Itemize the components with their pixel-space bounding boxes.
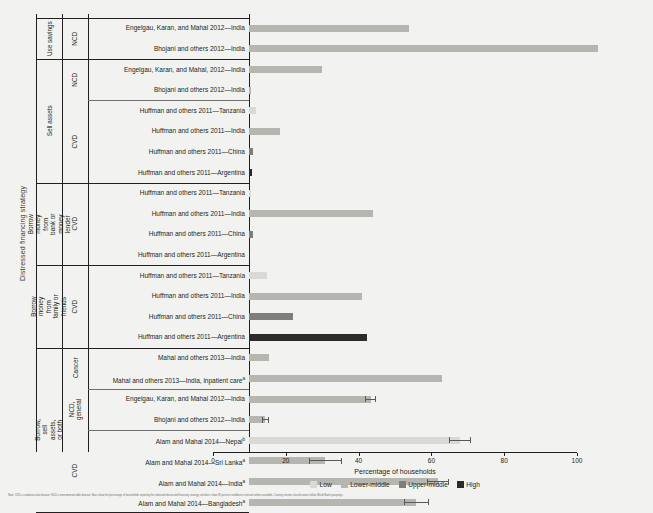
disease-cell: NCD <box>62 59 88 100</box>
error-bar-cap-low <box>309 458 310 464</box>
disease-cell: CVD <box>62 430 88 512</box>
error-bar-cap-high <box>428 499 429 505</box>
legend-item: High <box>457 481 480 488</box>
disease-column: NCDNCDCVDCVDCVDCancerNCD, generalCVD <box>62 14 88 452</box>
bar <box>249 45 598 52</box>
disease-label: NCD <box>71 32 78 46</box>
x-axis: 020406080100 <box>213 452 577 453</box>
disease-cell: NCD, general <box>62 389 88 430</box>
bar <box>249 313 293 320</box>
strategy-separator <box>36 18 249 19</box>
disease-cell: CVD <box>62 100 88 182</box>
x-axis-tick <box>286 453 287 456</box>
legend-swatch <box>310 481 317 488</box>
legend-label: High <box>466 481 480 488</box>
study-label-column: Engelgau, Karan, and Mahal 2012—IndiaBho… <box>88 14 249 452</box>
strategy-cell: Use savings <box>36 18 62 59</box>
disease-label: CVD <box>71 300 78 314</box>
footnote-marker: a <box>242 499 245 504</box>
error-bar-line <box>309 460 342 461</box>
error-bar-cap-low <box>449 437 450 443</box>
strategy-column: Use savingsSell assetsBorrow money from … <box>36 14 62 452</box>
disease-label: NCD, general <box>68 396 83 422</box>
x-axis-tick <box>359 453 360 456</box>
bars-column <box>249 14 613 452</box>
footnote-marker: a <box>242 376 245 381</box>
disease-separator <box>88 389 249 390</box>
error-bar-cap-high <box>470 437 471 443</box>
disease-cell: Cancer <box>62 348 88 389</box>
bar <box>249 334 367 341</box>
bar <box>249 87 251 94</box>
bar <box>249 107 256 114</box>
legend-item: Upper-middle <box>399 481 448 488</box>
bar <box>249 25 409 32</box>
x-axis-tick-label: 60 <box>428 457 435 464</box>
error-bar-cap-low <box>404 499 405 505</box>
bar <box>249 354 269 361</box>
bar <box>249 190 251 197</box>
bar <box>249 231 253 238</box>
legend-swatch <box>457 481 464 488</box>
x-axis-tick <box>213 453 214 456</box>
x-axis-tick-label: 0 <box>211 457 215 464</box>
footnote-marker: a <box>242 458 245 463</box>
error-bar-cap-low <box>262 417 263 423</box>
strategy-label: Sell assets <box>45 106 52 137</box>
bar <box>249 128 280 135</box>
error-bar <box>262 416 269 423</box>
x-axis-tick-label: 20 <box>282 457 289 464</box>
plot-area <box>249 14 613 426</box>
bar <box>249 375 442 382</box>
legend-item: Low <box>310 481 332 488</box>
strategy-label: Use savings <box>45 21 52 56</box>
strategy-cell: Borrow, sell assets, or both <box>36 348 62 513</box>
legend-swatch <box>399 481 406 488</box>
disease-label: CVD <box>71 464 78 478</box>
disease-label: Cancer <box>71 358 78 379</box>
x-axis-tick <box>431 453 432 456</box>
x-axis-tick-label: 80 <box>501 457 508 464</box>
strategy-cell: Sell assets <box>36 59 62 183</box>
error-bar <box>404 499 429 506</box>
disease-label: NCD <box>71 73 78 87</box>
x-axis-tick-label: 40 <box>355 457 362 464</box>
disease-cell: NCD <box>62 18 88 59</box>
disease-separator <box>88 100 249 101</box>
error-bar-cap-high <box>341 458 342 464</box>
bar <box>249 66 322 73</box>
bar <box>249 169 252 176</box>
disease-separator <box>88 430 249 431</box>
strategy-separator <box>36 348 249 349</box>
plot-frame: Use savingsSell assetsBorrow money from … <box>36 14 613 452</box>
error-bar <box>365 396 376 403</box>
bar <box>249 210 373 217</box>
x-axis-label: Percentage of households <box>213 468 577 475</box>
x-axis-tick <box>504 453 505 456</box>
error-bar-cap-high <box>375 396 376 402</box>
error-bar <box>449 437 471 444</box>
legend-label: Low <box>320 481 332 488</box>
bar <box>249 499 416 506</box>
bar <box>249 437 460 444</box>
error-bar-cap-high <box>268 417 269 423</box>
error-bar-cap-low <box>365 396 366 402</box>
disease-cell: CVD <box>62 183 88 265</box>
footnote-marker: b <box>242 437 245 442</box>
bar <box>249 251 250 258</box>
disease-cell: CVD <box>62 265 88 347</box>
x-axis-tick-label: 100 <box>572 457 583 464</box>
bar <box>249 272 267 279</box>
legend-swatch <box>341 481 348 488</box>
legend-label: Lower-middle <box>350 481 390 488</box>
strategy-separator <box>36 59 249 60</box>
strategy-cell: Borrow money from family or friends <box>36 265 62 347</box>
bar <box>249 396 371 403</box>
legend-label: Upper-middle <box>408 481 448 488</box>
strategy-label: Borrow, sell assets, or both <box>34 417 64 443</box>
error-bar <box>309 457 342 464</box>
strategy-separator <box>36 265 249 266</box>
disease-label: CVD <box>71 217 78 231</box>
legend: LowLower-middleUpper-middleHigh <box>213 481 577 488</box>
